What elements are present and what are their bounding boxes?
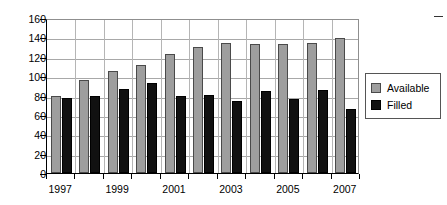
- bar-available: [79, 80, 89, 173]
- category-divider: [246, 20, 247, 173]
- bar-filled: [261, 91, 271, 173]
- y-axis: 020406080100120140160: [0, 0, 46, 205]
- bar-available: [193, 47, 203, 173]
- x-tick-label: 2007: [325, 183, 365, 195]
- legend-label-filled: Filled: [387, 99, 412, 111]
- x-tick-label: 1997: [40, 183, 80, 195]
- x-tick-mark: [274, 174, 275, 179]
- bar-available: [136, 65, 146, 173]
- category-divider: [332, 20, 333, 173]
- bar-group: [136, 20, 157, 173]
- bar-filled: [318, 90, 328, 173]
- x-tick-label: 2001: [154, 183, 194, 195]
- bar-filled: [62, 98, 72, 173]
- bar-group: [193, 20, 214, 173]
- bar-available: [335, 38, 345, 173]
- x-tick-label: 2003: [211, 183, 251, 195]
- x-tick-mark: [188, 174, 189, 179]
- bar-filled: [176, 96, 186, 173]
- category-divider: [75, 20, 76, 173]
- category-divider: [189, 20, 190, 173]
- bar-chart-figure: 020406080100120140160 199719992001200320…: [0, 0, 447, 205]
- x-tick-mark: [302, 174, 303, 179]
- bar-filled: [204, 95, 214, 173]
- legend-item-filled: Filled: [371, 96, 435, 113]
- bar-group: [307, 20, 328, 173]
- dash-icon: [434, 16, 443, 17]
- bar-filled: [232, 101, 242, 173]
- bar-filled: [147, 83, 157, 173]
- bar-group: [278, 20, 299, 173]
- category-divider: [275, 20, 276, 173]
- bar-available: [108, 71, 118, 173]
- bar-filled: [346, 109, 356, 173]
- x-tick-label: 2005: [268, 183, 308, 195]
- bar-filled: [289, 99, 299, 173]
- bar-group: [165, 20, 186, 173]
- bar-filled: [90, 96, 100, 174]
- x-tick-mark: [103, 174, 104, 179]
- x-tick-mark: [46, 174, 47, 179]
- chart-legend: Available Filled: [365, 73, 441, 119]
- bar-available: [165, 54, 175, 173]
- x-axis: 199719992001200320052007: [46, 174, 359, 205]
- category-divider: [104, 20, 105, 173]
- bar-available: [307, 43, 317, 173]
- legend-item-available: Available: [371, 79, 435, 96]
- bar-filled: [119, 89, 129, 173]
- x-tick-mark: [359, 174, 360, 179]
- bar-group: [108, 20, 129, 173]
- category-divider: [218, 20, 219, 173]
- plot-area: [46, 19, 359, 174]
- available-swatch-icon: [371, 83, 381, 93]
- bar-available: [221, 43, 231, 173]
- x-tick-mark: [217, 174, 218, 179]
- legend-label-available: Available: [387, 82, 429, 94]
- category-divider: [161, 20, 162, 173]
- bar-available: [250, 44, 260, 173]
- bar-available: [278, 44, 288, 173]
- category-divider: [132, 20, 133, 173]
- x-tick-mark: [331, 174, 332, 179]
- x-tick-mark: [245, 174, 246, 179]
- x-tick-mark: [131, 174, 132, 179]
- bar-group: [79, 20, 100, 173]
- category-divider: [303, 20, 304, 173]
- x-tick-label: 1999: [97, 183, 137, 195]
- x-tick-mark: [160, 174, 161, 179]
- filled-swatch-icon: [371, 100, 381, 110]
- x-tick-mark: [74, 174, 75, 179]
- bar-group: [250, 20, 271, 173]
- bar-group: [221, 20, 242, 173]
- bar-group: [51, 20, 72, 173]
- bar-group: [335, 20, 356, 173]
- bar-available: [51, 96, 61, 174]
